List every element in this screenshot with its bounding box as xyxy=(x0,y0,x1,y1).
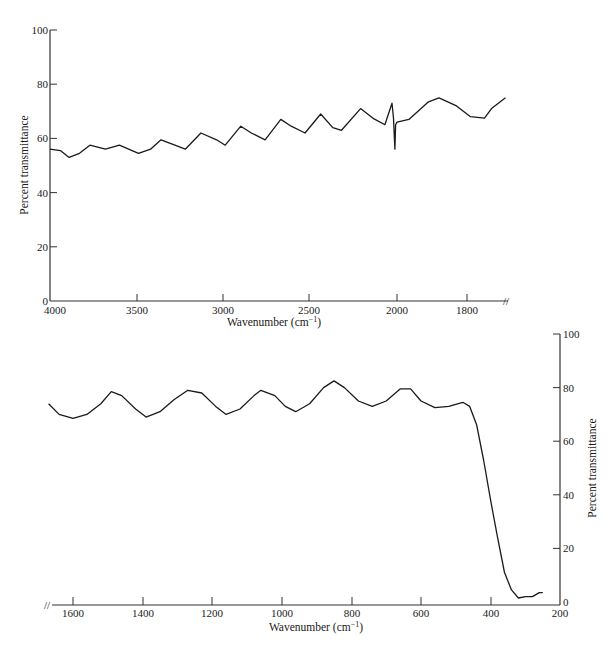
bottom-axis-break: // xyxy=(44,599,51,611)
top-x-tick-label: 3000 xyxy=(212,304,235,316)
bottom-y-tick-label: 80 xyxy=(563,382,575,394)
bottom-transmittance-curve xyxy=(49,381,543,598)
top-x-tick-label: 1800 xyxy=(456,304,479,316)
top-y-axis-title: Percent transmittance xyxy=(18,115,30,214)
bottom-chart: // 020406080100 160014001200100080060040… xyxy=(44,328,598,634)
top-y-tick-label: 20 xyxy=(37,241,49,253)
top-x-tick-label: 2000 xyxy=(386,304,409,316)
bottom-x-tick-label: 600 xyxy=(413,607,430,619)
bottom-y-tick-label: 40 xyxy=(563,489,575,501)
top-transmittance-curve xyxy=(50,98,506,158)
top-axis-break: // xyxy=(503,295,510,307)
top-y-tick-label: 60 xyxy=(37,132,49,144)
top-y-tick-label: 40 xyxy=(37,187,49,199)
top-x-tick-label: 4000 xyxy=(44,304,67,316)
bottom-y-axis-title: Percent transmittance xyxy=(586,418,598,517)
top-x-ticks: 400035003000250020001800 xyxy=(44,294,479,316)
bottom-y-ticks: 020406080100 xyxy=(553,328,580,608)
bottom-y-tick-label: 60 xyxy=(563,435,575,447)
top-y-tick-label: 80 xyxy=(37,78,49,90)
bottom-x-tick-label: 200 xyxy=(552,607,569,619)
bottom-x-tick-label: 1200 xyxy=(201,607,224,619)
bottom-x-tick-label: 1400 xyxy=(132,607,155,619)
bottom-x-tick-label: 1600 xyxy=(62,607,85,619)
top-x-axis-title: Wavenumber (cm−1) xyxy=(227,315,321,330)
bottom-y-tick-label: 20 xyxy=(563,542,575,554)
bottom-x-axis-title: Wavenumber (cm−1) xyxy=(269,620,363,635)
bottom-x-tick-label: 800 xyxy=(344,607,361,619)
top-y-ticks: 020406080100 xyxy=(32,24,58,307)
bottom-y-tick-label: 100 xyxy=(563,328,580,340)
bottom-x-tick-label: 1000 xyxy=(271,607,294,619)
top-y-tick-label: 100 xyxy=(32,24,49,36)
bottom-x-tick-label: 400 xyxy=(483,607,500,619)
top-x-tick-label: 3500 xyxy=(126,304,149,316)
bottom-x-ticks: 1600140012001000800600400200 xyxy=(62,597,569,619)
ir-spectrum-figure: // 020406080100 400035003000250020001800… xyxy=(0,0,608,650)
top-chart: // 020406080100 400035003000250020001800… xyxy=(18,24,510,329)
